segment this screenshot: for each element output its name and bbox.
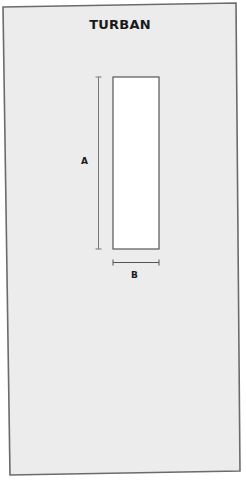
diagram-title: TURBAN xyxy=(0,17,240,32)
dimension-label-b: B xyxy=(131,270,138,280)
diagram-canvas xyxy=(0,0,246,486)
dimension-label-a: A xyxy=(81,156,88,166)
pattern-piece-rectangle xyxy=(113,77,159,249)
